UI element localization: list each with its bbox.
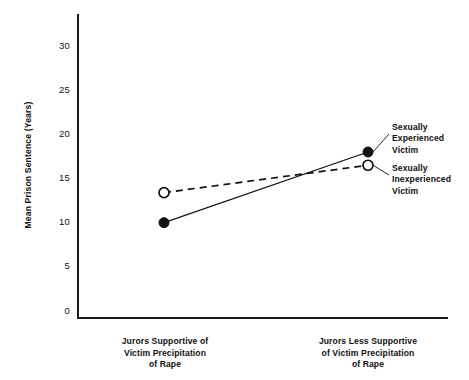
x-axis-category-1-line-1: of Victim Precipitation (283, 348, 453, 360)
legend-item-1-line-2: Victim (392, 186, 451, 197)
x-axis-category-1-line-0: Jurors Less Supportive (283, 336, 453, 348)
legend-item-0-line-2: Victim (392, 145, 444, 156)
legend-item-1-line-0: Sexually (392, 163, 451, 174)
legend-item-1-line-1: Inexperienced (392, 174, 451, 185)
legend-item-0-line-1: Experienced (392, 133, 444, 144)
series-line-0 (164, 152, 368, 223)
x-axis-category-0-line-1: Victim Precipitation (80, 348, 250, 360)
x-axis-category-0-line-0: Jurors Supportive of (80, 336, 250, 348)
legend-connector-0 (373, 134, 389, 152)
x-axis-category-0-line-2: of Rape (80, 359, 250, 371)
x-axis-category-1: Jurors Less Supportive of Victim Precipi… (283, 336, 453, 371)
series-line-1 (164, 165, 368, 192)
legend-item-0-line-0: Sexually (392, 122, 444, 133)
legend-item-sexually-inexperienced-victim: Sexually Inexperienced Victim (392, 163, 451, 197)
x-axis-category-0: Jurors Supportive of Victim Precipitatio… (80, 336, 250, 371)
data-point-0-1 (363, 147, 373, 157)
data-point-1-1 (363, 160, 373, 170)
x-axis-category-1-line-2: of Rape (283, 359, 453, 371)
legend-item-sexually-experienced-victim: Sexually Experienced Victim (392, 122, 444, 156)
legend-connector-1 (373, 165, 389, 175)
chart-figure: Mean Prison Sentence (Years) 30 25 20 15… (0, 0, 469, 380)
data-point-1-0 (159, 188, 169, 198)
data-point-0-0 (159, 218, 169, 228)
